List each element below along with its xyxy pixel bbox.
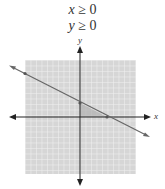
y-axis-down-arrow-icon: [77, 179, 83, 186]
boundary-right-arrow-icon: [143, 133, 150, 138]
y-intercept-point: [78, 101, 81, 104]
x-intercept-point: [105, 115, 108, 118]
x-axis-right-arrow-icon: [144, 114, 151, 120]
x-axis-label: x: [154, 111, 158, 121]
inequality-graph: [0, 0, 165, 189]
boundary-left-arrow-icon: [9, 66, 16, 71]
y-axis-label: y: [78, 35, 82, 45]
y-axis-up-arrow-icon: [77, 46, 83, 53]
x-axis-left-arrow-icon: [9, 114, 16, 120]
line-point: [23, 72, 26, 75]
